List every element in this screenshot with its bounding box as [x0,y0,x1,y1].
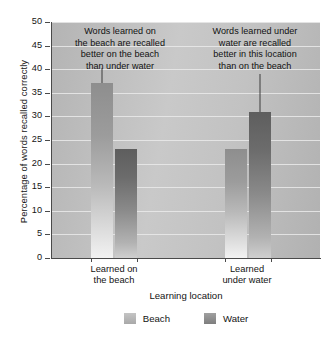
legend-label-beach: Beach [143,313,170,324]
y-axis-tick-label: 15 [16,181,42,191]
y-axis-tick [45,69,50,70]
y-axis-tick [45,258,50,259]
x-axis-title: Learning location [52,290,320,301]
x-axis-tick [137,258,138,262]
x-axis-tick [91,258,92,262]
y-axis-tick-label: 45 [16,40,42,50]
legend-item-beach: Beach [124,313,170,324]
bar [225,149,247,258]
y-axis-tick [45,22,50,23]
y-axis-tick [45,140,50,141]
y-axis-tick-label: 50 [16,16,42,26]
y-axis-tick-label: 40 [16,63,42,73]
annotation-right: Words learned under water are recalled b… [192,26,318,72]
y-axis-tick-label: 5 [16,228,42,238]
legend-swatch-water [204,313,216,324]
y-axis-tick [45,93,50,94]
y-axis-tick-label: 30 [16,110,42,120]
legend-label-water: Water [223,313,248,324]
y-axis-tick [45,116,50,117]
y-axis-tick-label: 20 [16,158,42,168]
y-axis-tick [45,234,50,235]
bar-chart-figure: Percentage of words recalled correctly W… [0,0,334,344]
bar [91,83,113,258]
annotation-left: Words learned on the beach are recalled … [56,26,184,72]
bar [249,112,271,258]
error-bar-whisker [260,74,261,112]
y-axis-tick [45,211,50,212]
chart-legend: Beach Water [52,313,320,324]
y-axis-tick [45,187,50,188]
y-axis-tick [45,164,50,165]
x-category-label: Learned on the beach [63,264,165,287]
x-axis-tick [225,258,226,262]
y-axis-tick-label: 25 [16,134,42,144]
y-axis-tick-label: 0 [16,252,42,262]
y-axis-line [51,22,52,259]
y-axis-tick-label: 35 [16,87,42,97]
gridline [52,22,320,23]
x-axis-tick [271,258,272,262]
y-axis-tick-label: 10 [16,205,42,215]
x-category-label: Learned under water [196,264,298,287]
y-axis-tick [45,46,50,47]
bar [115,149,137,258]
plot-area: Words learned on the beach are recalled … [52,22,320,258]
legend-swatch-beach [124,313,136,324]
legend-item-water: Water [204,313,248,324]
